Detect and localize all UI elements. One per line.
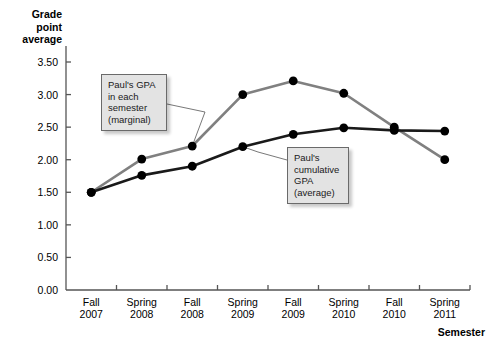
y-tick-label: 2.00 — [16, 155, 58, 165]
x-tick-label: Fall 2010 — [369, 296, 420, 320]
x-tick-label: Fall 2007 — [66, 296, 117, 320]
x-tick-label: Spring 2011 — [420, 296, 471, 320]
callout-marginal-gpa: Paul's GPA in each semester (marginal) — [101, 74, 167, 131]
y-tick-label: 3.50 — [16, 57, 58, 67]
y-tick-label: 0.00 — [16, 285, 58, 295]
y-tick-label: 2.50 — [16, 122, 58, 132]
y-tick-label: 0.50 — [16, 252, 58, 262]
x-tick-label: Fall 2009 — [268, 296, 319, 320]
y-axis-title: Grade point average — [4, 8, 62, 46]
callout-cumulative-gpa: Paul's cumulative GPA (average) — [287, 147, 349, 204]
x-tick-label: Spring 2010 — [319, 296, 370, 320]
y-tick-label: 3.00 — [16, 90, 58, 100]
gpa-line-chart: Grade point average 0.000.501.001.502.00… — [0, 0, 493, 349]
x-tick-label: Fall 2008 — [167, 296, 218, 320]
y-tick-label: 1.50 — [16, 187, 58, 197]
x-axis-title: Semester — [438, 326, 485, 338]
y-tick-label: 1.00 — [16, 220, 58, 230]
x-tick-label: Spring 2008 — [117, 296, 168, 320]
x-tick-label: Spring 2009 — [218, 296, 269, 320]
